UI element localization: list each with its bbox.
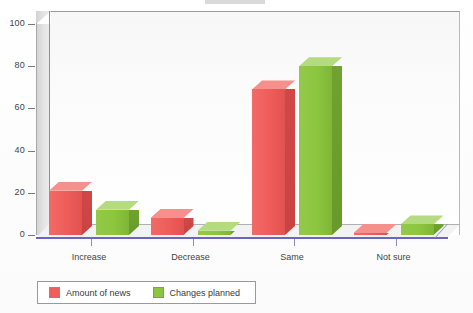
bar-front-face	[354, 233, 387, 235]
y-tick-label-40: 40	[0, 145, 25, 155]
y-tick-mark-0	[28, 235, 35, 236]
bar-front-face	[401, 224, 434, 235]
cropped-title-artifact	[205, 0, 265, 4]
chart-floor-front-edge	[36, 237, 448, 239]
bar-same-amount-of-news[interactable]	[252, 89, 285, 235]
y-tick-mark-20	[28, 193, 35, 194]
y-tick-label-0: 0	[0, 229, 25, 239]
legend-label-changes-planned: Changes planned	[170, 288, 241, 298]
y-tick-mark-80	[28, 66, 35, 67]
y-tick-mark-60	[28, 108, 35, 109]
chart-legend: Amount of news Changes planned	[37, 281, 256, 304]
chart-wall-outer-edge	[36, 23, 37, 235]
y-tick-label-20: 20	[0, 187, 25, 197]
bar-side-face	[332, 66, 342, 235]
y-tick-label-60: 60	[0, 102, 25, 112]
x-tick-mark-increase	[91, 239, 92, 246]
y-tick-mark-40	[28, 151, 35, 152]
legend-swatch-green-icon	[153, 287, 164, 298]
bar-front-face	[151, 218, 184, 235]
x-axis-label-decrease: Decrease	[141, 252, 241, 262]
y-tick-mark-100	[28, 24, 35, 25]
legend-item-amount-of-news[interactable]: Amount of news	[49, 287, 131, 298]
bar-not-sure-changes-planned[interactable]	[401, 224, 434, 235]
y-tick-label-100: 100	[0, 18, 25, 28]
plot-area	[36, 11, 460, 235]
bar-chart: 020406080100IncreaseDecreaseSameNot sure…	[0, 0, 473, 313]
x-tick-mark-same	[294, 239, 295, 246]
x-axis-label-not-sure: Not sure	[344, 252, 444, 262]
bar-increase-amount-of-news[interactable]	[49, 191, 82, 235]
bar-increase-changes-planned[interactable]	[96, 210, 129, 235]
bar-front-face	[96, 210, 129, 235]
bar-decrease-amount-of-news[interactable]	[151, 218, 184, 235]
y-tick-label-80: 80	[0, 60, 25, 70]
bar-same-changes-planned[interactable]	[299, 66, 332, 235]
legend-swatch-red-icon	[49, 287, 60, 298]
bar-front-face	[299, 66, 332, 235]
x-axis-label-increase: Increase	[39, 252, 139, 262]
x-tick-mark-not-sure	[396, 239, 397, 246]
chart-left-wall	[36, 11, 50, 235]
bar-decrease-changes-planned[interactable]	[198, 231, 231, 235]
bar-not-sure-amount-of-news[interactable]	[354, 233, 387, 235]
bar-front-face	[252, 89, 285, 235]
legend-item-changes-planned[interactable]: Changes planned	[153, 287, 241, 298]
bar-front-face	[49, 191, 82, 235]
bar-front-face	[198, 231, 231, 235]
bar-side-face	[285, 89, 295, 235]
x-tick-mark-decrease	[193, 239, 194, 246]
legend-label-amount-of-news: Amount of news	[66, 288, 131, 298]
x-axis-label-same: Same	[242, 252, 342, 262]
